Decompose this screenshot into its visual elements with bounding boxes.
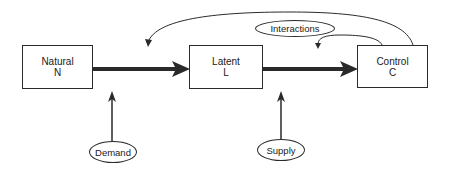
arrow-latent-to-control bbox=[263, 61, 358, 77]
node-interactions-label: Interactions bbox=[270, 23, 319, 34]
node-latent-symbol: L bbox=[223, 67, 229, 78]
node-natural-symbol: N bbox=[54, 67, 61, 78]
node-supply: Supply bbox=[257, 139, 305, 161]
node-control: Control C bbox=[357, 45, 428, 88]
node-natural: Natural N bbox=[22, 45, 93, 89]
diagram-canvas: Natural N Latent L Control C Demand Supp… bbox=[0, 0, 449, 169]
arrow-natural-to-latent bbox=[93, 61, 190, 77]
arrow-supply-up bbox=[277, 91, 285, 139]
node-latent-label: Latent bbox=[212, 56, 240, 67]
node-demand: Demand bbox=[89, 141, 137, 163]
node-natural-label: Natural bbox=[41, 56, 73, 67]
node-latent: Latent L bbox=[189, 45, 263, 89]
node-supply-label: Supply bbox=[266, 145, 295, 156]
arrow-demand-up bbox=[108, 91, 116, 141]
node-control-label: Control bbox=[376, 56, 408, 67]
node-control-symbol: C bbox=[389, 67, 396, 78]
node-interactions: Interactions bbox=[255, 20, 335, 37]
node-demand-label: Demand bbox=[95, 147, 131, 158]
